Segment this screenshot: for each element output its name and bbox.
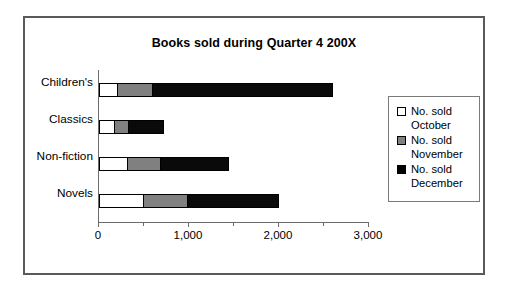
chart-legend: No. sold October No. sold November No. s… <box>388 96 480 202</box>
bar-segment-december[interactable] <box>187 194 279 208</box>
plot-area: 0 1,000 2,000 3,000 Children's Classics … <box>98 70 368 222</box>
bar-segment-october[interactable] <box>99 83 118 97</box>
legend-item-november[interactable]: No. sold November <box>397 133 479 161</box>
black-swatch-icon <box>397 165 406 174</box>
legend-item-december[interactable]: No. sold December <box>397 162 479 190</box>
legend-label-november: No. sold November <box>411 133 463 161</box>
x-axis-tick-label-0: 0 <box>95 229 101 241</box>
white-swatch-icon <box>397 107 406 116</box>
x-axis-tick-3000 <box>368 223 369 227</box>
legend-label-december: No. sold December <box>411 162 463 190</box>
x-axis-tick-2000 <box>278 223 279 227</box>
bar-segment-december[interactable] <box>152 83 333 97</box>
bar-segment-november[interactable] <box>127 157 161 171</box>
category-label-novels: Novels <box>57 186 93 200</box>
chart-frame: Books sold during Quarter 4 200X 0 1,000… <box>23 16 485 275</box>
x-axis-tick-0 <box>98 223 99 227</box>
bar-segment-october[interactable] <box>99 120 115 134</box>
legend-item-october[interactable]: No. sold October <box>397 104 479 132</box>
stacked-bar-classics[interactable] <box>99 120 163 134</box>
bar-segment-december[interactable] <box>128 120 164 134</box>
gray-swatch-icon <box>397 136 406 145</box>
category-label-childrens: Children's <box>41 75 93 89</box>
legend-label-october: No. sold October <box>411 104 452 132</box>
x-axis-tick-label-2000: 2,000 <box>264 229 293 241</box>
bar-segment-october[interactable] <box>99 194 144 208</box>
x-axis-tick-2500 <box>323 223 324 226</box>
bar-segment-october[interactable] <box>99 157 128 171</box>
x-axis-tick-label-1000: 1,000 <box>174 229 203 241</box>
stacked-bar-childrens[interactable] <box>99 83 332 97</box>
x-axis-tick-1500 <box>233 223 234 226</box>
stacked-bar-novels[interactable] <box>99 194 278 208</box>
x-axis-tick-label-3000: 3,000 <box>354 229 383 241</box>
bar-segment-december[interactable] <box>160 157 229 171</box>
bar-segment-november[interactable] <box>143 194 188 208</box>
bar-segment-november[interactable] <box>117 83 153 97</box>
category-label-non-fiction: Non-fiction <box>37 149 93 163</box>
stacked-bar-non-fiction[interactable] <box>99 157 228 171</box>
chart-title: Books sold during Quarter 4 200X <box>25 36 483 50</box>
x-axis-tick-1000 <box>188 223 189 227</box>
category-label-classics: Classics <box>49 112 93 126</box>
x-axis-tick-500 <box>143 223 144 226</box>
bar-segment-november[interactable] <box>114 120 129 134</box>
